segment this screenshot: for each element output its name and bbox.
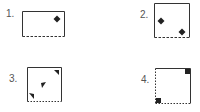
figure-2 (155, 4, 190, 38)
diamond-icon (54, 16, 61, 23)
figure-4 (156, 69, 191, 104)
diamond-icon (179, 29, 186, 36)
triangle-icon (41, 82, 46, 88)
figure-3 (28, 68, 62, 102)
triangle-icon (29, 93, 34, 99)
figures-canvas (0, 0, 200, 112)
figure-1 (23, 12, 65, 37)
figure-1-solid-border (23, 12, 65, 37)
square-icon (156, 98, 161, 103)
square-icon (185, 69, 190, 74)
triangle-icon (54, 70, 59, 75)
diamond-icon (158, 18, 165, 25)
